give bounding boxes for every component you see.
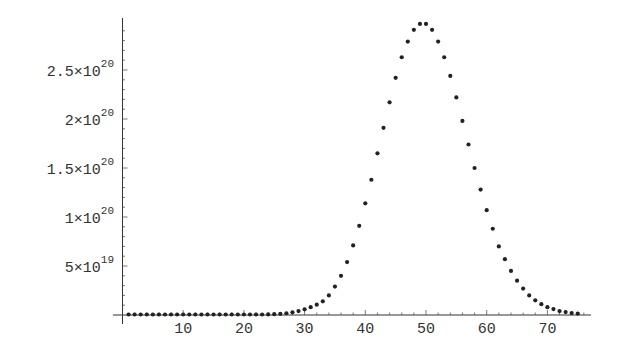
data-point: [545, 305, 549, 309]
data-point: [139, 312, 143, 316]
data-point: [254, 312, 258, 316]
data-point: [321, 299, 325, 303]
data-point: [539, 302, 543, 306]
y-tick-label: 201.5×10: [47, 156, 114, 179]
axes: [113, 18, 591, 324]
y-axis-ticks: 195×10201×10201.5×10202×10202.5×10: [47, 31, 128, 305]
x-tick-label: 30: [296, 321, 314, 338]
data-point: [315, 303, 319, 307]
y-tick-label: 195×10: [65, 254, 114, 277]
data-point: [570, 311, 574, 315]
data-point: [576, 311, 580, 315]
data-point: [290, 310, 294, 314]
x-tick-label: 50: [417, 321, 435, 338]
data-point: [145, 312, 149, 316]
data-point: [363, 201, 367, 205]
data-point: [460, 119, 464, 123]
data-point: [357, 224, 361, 228]
data-point: [339, 274, 343, 278]
data-point: [430, 28, 434, 32]
data-point: [224, 312, 228, 316]
svg-text:20: 20: [101, 107, 114, 119]
data-point: [466, 142, 470, 146]
svg-text:20: 20: [101, 58, 114, 70]
data-point: [442, 55, 446, 59]
data-point: [205, 312, 209, 316]
data-point: [199, 312, 203, 316]
data-point: [497, 244, 501, 248]
data-point: [248, 312, 252, 316]
data-point: [284, 311, 288, 315]
data-point: [272, 312, 276, 316]
y-tick-label: 202.5×10: [47, 58, 114, 81]
data-point: [436, 39, 440, 43]
data-point: [151, 312, 155, 316]
data-point: [211, 312, 215, 316]
data-point: [126, 312, 130, 316]
data-point: [278, 312, 282, 316]
data-point: [218, 312, 222, 316]
x-tick-label: 40: [356, 321, 374, 338]
data-point: [412, 28, 416, 32]
data-point: [333, 284, 337, 288]
data-point: [266, 312, 270, 316]
data-point: [375, 151, 379, 155]
data-point: [557, 309, 561, 313]
data-point: [303, 307, 307, 311]
data-point: [369, 178, 373, 182]
data-point: [406, 39, 410, 43]
data-point: [479, 187, 483, 191]
svg-text:20: 20: [101, 156, 114, 168]
data-point: [351, 243, 355, 247]
data-point: [448, 74, 452, 78]
y-tick-label: 201×10: [65, 205, 114, 228]
data-point: [485, 208, 489, 212]
data-point: [236, 312, 240, 316]
data-point: [503, 257, 507, 261]
data-point: [181, 312, 185, 316]
data-point: [454, 95, 458, 99]
data-point: [163, 312, 167, 316]
data-point: [230, 312, 234, 316]
data-point: [564, 310, 568, 314]
x-tick-label: 10: [174, 321, 192, 338]
data-point: [387, 100, 391, 104]
data-point: [515, 279, 519, 283]
data-point: [509, 269, 513, 273]
svg-text:2×10: 2×10: [65, 113, 101, 130]
x-tick-label: 20: [235, 321, 253, 338]
svg-text:2.5×10: 2.5×10: [47, 64, 101, 81]
data-point: [242, 312, 246, 316]
x-tick-label: 70: [538, 321, 556, 338]
svg-text:1×10: 1×10: [65, 211, 101, 228]
data-point: [175, 312, 179, 316]
data-point: [133, 312, 137, 316]
data-point: [381, 126, 385, 130]
data-point: [521, 286, 525, 290]
data-point: [400, 55, 404, 59]
data-point: [260, 312, 264, 316]
data-point: [491, 227, 495, 231]
data-point: [394, 76, 398, 80]
data-point: [424, 22, 428, 26]
data-point: [551, 307, 555, 311]
svg-text:19: 19: [101, 254, 114, 266]
data-point: [472, 166, 476, 170]
svg-text:1.5×10: 1.5×10: [47, 162, 101, 179]
data-point: [157, 312, 161, 316]
data-point: [327, 293, 331, 297]
svg-text:20: 20: [101, 205, 114, 217]
data-point: [418, 22, 422, 26]
data-point: [296, 309, 300, 313]
data-point: [169, 312, 173, 316]
svg-text:5×10: 5×10: [65, 260, 101, 277]
data-point: [193, 312, 197, 316]
data-point: [309, 305, 313, 309]
data-point: [527, 293, 531, 297]
data-point: [533, 298, 537, 302]
data-point: [345, 260, 349, 264]
data-points: [126, 22, 579, 317]
data-point: [187, 312, 191, 316]
x-tick-label: 60: [478, 321, 496, 338]
scatter-plot: 195×10201×10201.5×10202×10202.5×10 10203…: [0, 0, 619, 354]
